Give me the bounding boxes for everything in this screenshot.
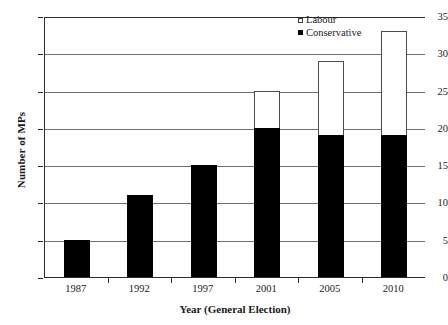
x-tick-mark-3 bbox=[235, 278, 236, 283]
x-tick-label-1997: 1997 bbox=[192, 283, 213, 294]
gridline-30 bbox=[45, 54, 425, 55]
bar-1992 bbox=[127, 195, 153, 277]
x-tick-mark-1 bbox=[108, 278, 109, 283]
y-tick-mark-30 bbox=[38, 54, 43, 55]
plot-area bbox=[44, 17, 425, 278]
x-tick-mark-4 bbox=[298, 278, 299, 283]
y-tick-mark-15 bbox=[38, 166, 43, 167]
gridline-10 bbox=[45, 203, 425, 204]
hollow-square-icon bbox=[298, 18, 303, 23]
bar-segment-labour-2005 bbox=[318, 61, 344, 136]
bar-chart-figure: Number of MPs 05101520253035 19871992199… bbox=[0, 0, 448, 325]
y-tick-mark-5 bbox=[38, 241, 43, 242]
bar-segment-conservative-2001 bbox=[254, 128, 280, 277]
bar-segment-labour-2010 bbox=[381, 31, 407, 135]
x-tick-mark-2 bbox=[171, 278, 172, 283]
y-tick-mark-35 bbox=[38, 17, 43, 18]
bar-2010 bbox=[381, 31, 407, 277]
bar-2001 bbox=[254, 91, 280, 277]
x-tick-label-2010: 2010 bbox=[383, 283, 404, 294]
y-tick-label-15: 15 bbox=[414, 161, 448, 172]
x-tick-mark-5 bbox=[362, 278, 363, 283]
y-axis-title: Number of MPs bbox=[15, 80, 27, 220]
legend-label: Labour bbox=[306, 14, 336, 27]
gridline-15 bbox=[45, 166, 425, 167]
legend-item-conservative: Conservative bbox=[298, 27, 361, 40]
y-tick-label-20: 20 bbox=[414, 124, 448, 135]
x-tick-label-1987: 1987 bbox=[65, 283, 86, 294]
bar-segment-conservative-1987 bbox=[64, 240, 90, 277]
x-tick-label-2005: 2005 bbox=[319, 283, 340, 294]
x-tick-label-1992: 1992 bbox=[129, 283, 150, 294]
y-tick-label-5: 5 bbox=[414, 235, 448, 246]
gridline-35 bbox=[45, 17, 425, 18]
y-tick-label-10: 10 bbox=[414, 198, 448, 209]
gridline-25 bbox=[45, 92, 425, 93]
y-tick-label-35: 35 bbox=[414, 12, 448, 23]
bar-1997 bbox=[191, 165, 217, 277]
y-tick-mark-0 bbox=[38, 278, 43, 279]
y-tick-label-0: 0 bbox=[414, 273, 448, 284]
filled-square-icon bbox=[298, 30, 303, 35]
gridline-20 bbox=[45, 129, 425, 130]
bar-2005 bbox=[318, 61, 344, 277]
legend-label: Conservative bbox=[306, 27, 361, 40]
x-tick-label-2001: 2001 bbox=[256, 283, 277, 294]
bar-segment-conservative-1992 bbox=[127, 195, 153, 277]
y-tick-mark-20 bbox=[38, 129, 43, 130]
bar-1987 bbox=[64, 240, 90, 277]
y-tick-label-30: 30 bbox=[414, 49, 448, 60]
chart-legend: LabourConservative bbox=[298, 14, 361, 39]
bar-segment-labour-2001 bbox=[254, 91, 280, 128]
bar-segment-conservative-2010 bbox=[381, 135, 407, 277]
y-tick-mark-10 bbox=[38, 203, 43, 204]
bar-segment-conservative-1997 bbox=[191, 165, 217, 277]
legend-item-labour: Labour bbox=[298, 14, 361, 27]
y-tick-label-25: 25 bbox=[414, 86, 448, 97]
gridline-5 bbox=[45, 241, 425, 242]
x-axis-title: Year (General Election) bbox=[44, 303, 426, 315]
y-tick-mark-25 bbox=[38, 92, 43, 93]
bar-segment-conservative-2005 bbox=[318, 135, 344, 277]
